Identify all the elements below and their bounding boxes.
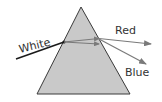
blue-label: Blue (125, 66, 150, 79)
prism-triangle (37, 7, 130, 94)
prism-diagram: White Red Blue (0, 0, 162, 102)
red-label: Red (115, 24, 136, 37)
